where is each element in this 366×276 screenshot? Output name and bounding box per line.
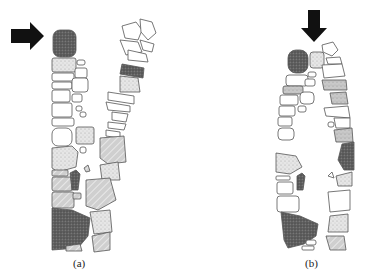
load-arrow-right-icon bbox=[11, 22, 44, 50]
left-wall-column bbox=[52, 30, 94, 251]
load-arrow-down-icon bbox=[301, 10, 327, 42]
stone-wall-diagram: (a) bbox=[0, 0, 366, 276]
right-wall-column bbox=[86, 19, 156, 252]
right-leaf-column bbox=[322, 42, 354, 250]
panel-b: (b) bbox=[276, 10, 354, 270]
panel-label-b: (b) bbox=[305, 257, 318, 270]
panel-a: (a) bbox=[11, 19, 156, 270]
left-leaf-column bbox=[276, 50, 324, 250]
panel-label-a: (a) bbox=[73, 257, 86, 270]
